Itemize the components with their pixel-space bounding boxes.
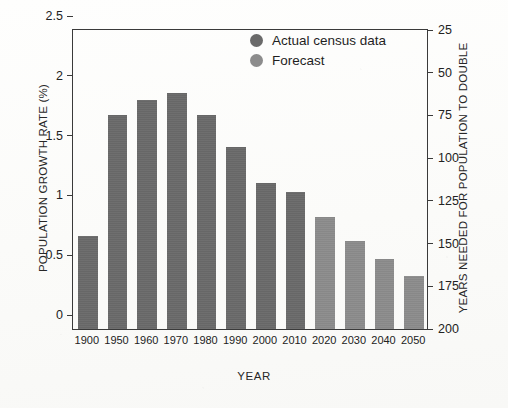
y-axis-left-tick: 0.5: [46, 248, 73, 262]
y-axis-right-tick: 200: [427, 322, 459, 336]
y-axis-right-tick-mark: [427, 329, 433, 330]
bar-1990[interactable]: [226, 147, 246, 329]
y-axis-right-tick-label: 100: [438, 151, 459, 165]
y-axis-left-tick-mark: [67, 16, 73, 17]
y-axis-left-tick-label: 0: [56, 308, 63, 322]
y-axis-left-tick-label: 0.5: [46, 248, 63, 262]
y-axis-right-tick: 150: [427, 237, 459, 251]
y-axis-left-tick-mark: [67, 255, 73, 256]
legend-item-label: Actual census data: [272, 33, 386, 48]
chart-legend: Actual census dataForecast: [250, 33, 386, 73]
y-axis-left-tick: 0: [56, 308, 73, 322]
y-axis-right-tick-label: 50: [438, 66, 452, 80]
plot-area: 00.511.522.5 255075100125150175200: [72, 29, 428, 330]
x-axis-tick-label: 1990: [223, 334, 247, 346]
x-axis-title: YEAR: [0, 370, 508, 382]
y-axis-right-tick: 100: [427, 151, 459, 165]
y-axis-right-tick-label: 175: [438, 279, 459, 293]
y-axis-right-tick-mark: [427, 286, 433, 287]
y-axis-left-tick-mark: [67, 195, 73, 196]
legend-circle-icon: [250, 54, 263, 67]
y-axis-left-tick-label: 1.5: [46, 129, 63, 143]
y-axis-right-tick-mark: [427, 72, 433, 73]
y-axis-right-tick: 25: [427, 23, 452, 37]
bar-2000[interactable]: [256, 183, 276, 329]
y-axis-left-tick: 1.5: [46, 129, 73, 143]
y-axis-right-tick-label: 125: [438, 194, 459, 208]
bar-2050[interactable]: [404, 276, 424, 329]
y-axis-right-tick: 175: [427, 279, 459, 293]
bar-1960[interactable]: [137, 100, 157, 329]
y-axis-left-tick: 2: [56, 69, 73, 83]
y-axis-right-tick-label: 200: [438, 322, 459, 336]
legend-item[interactable]: Actual census data: [250, 33, 386, 48]
x-axis-tick-label: 2050: [401, 334, 425, 346]
y-axis-right-tick: 75: [427, 108, 452, 122]
y-axis-right-tick-mark: [427, 115, 433, 116]
bar-2020[interactable]: [315, 217, 335, 329]
y-axis-right-tick-mark: [427, 200, 433, 201]
y-axis-right-tick-mark: [427, 30, 433, 31]
y-axis-left-tick-label: 2: [56, 69, 63, 83]
x-axis-tick-label: 1980: [193, 334, 217, 346]
y-axis-left-tick-mark: [67, 75, 73, 76]
x-axis-tick-label: 2030: [342, 334, 366, 346]
x-axis-tick-label: 1970: [164, 334, 188, 346]
chart-page: POPULATION GROWTH RATE (%) YEARS NEEDED …: [0, 0, 508, 408]
bar-2030[interactable]: [345, 241, 365, 329]
bar-1970[interactable]: [167, 93, 187, 329]
bar-2040[interactable]: [375, 259, 395, 329]
y-axis-right-tick-label: 75: [438, 108, 452, 122]
y-axis-right-tick: 50: [427, 66, 452, 80]
y-axis-left-tick-mark: [67, 315, 73, 316]
legend-circle-icon: [250, 34, 263, 47]
bar-1900[interactable]: [78, 236, 98, 329]
x-axis-tick-label: 2000: [253, 334, 277, 346]
x-axis-tick-label: 2010: [282, 334, 306, 346]
y-axis-left-tick-label: 2.5: [46, 9, 63, 23]
bar-1950[interactable]: [108, 115, 128, 329]
legend-item-label: Forecast: [272, 53, 325, 68]
bar-2010[interactable]: [286, 192, 306, 329]
legend-item[interactable]: Forecast: [250, 53, 386, 68]
y-axis-left-tick-mark: [67, 135, 73, 136]
y-axis-right-tick-label: 150: [438, 237, 459, 251]
x-axis-tick-label: 2040: [371, 334, 395, 346]
bar-1980[interactable]: [197, 115, 217, 329]
y-axis-right-tick-label: 25: [438, 23, 452, 37]
y-axis-right-tick-mark: [427, 243, 433, 244]
y-axis-left-tick: 2.5: [46, 9, 73, 23]
x-axis-tick-label: 1900: [75, 334, 99, 346]
y-axis-right-tick: 125: [427, 194, 459, 208]
y-axis-right-tick-mark: [427, 158, 433, 159]
y-axis-left-tick: 1: [56, 188, 73, 202]
y-axis-left-title: POPULATION GROWTH RATE (%): [37, 28, 49, 328]
x-axis-tick-label: 1950: [104, 334, 128, 346]
y-axis-left-tick-label: 1: [56, 188, 63, 202]
x-axis-tick-label: 2020: [312, 334, 336, 346]
x-axis-tick-label: 1960: [134, 334, 158, 346]
